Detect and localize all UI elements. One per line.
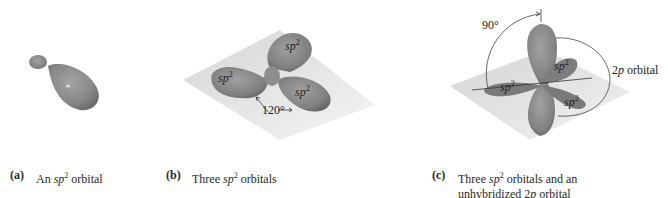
panel-a: (a)An sp2 orbital [0,0,150,198]
caption-letter: (c) [432,168,458,183]
sp2-label-right: sp2 [295,84,310,100]
sp2-orbital-single-illustration [0,0,150,160]
caption-a: (a)An sp2 orbital [10,168,103,187]
nucleus [264,66,280,86]
angle-label-120: 120° [262,103,285,118]
small-lobe [29,55,47,69]
panel-c: 90° sp2 sp2 sp2 2p orbital (c)Three sp2 … [380,0,668,198]
sp2-label-top: sp2 [285,38,300,54]
caption-b: (b)Three sp2 orbitals [166,168,277,187]
sp2-label-left: sp2 [500,79,515,95]
caption-letter: (b) [166,168,192,183]
sp2-label-right: sp2 [564,94,579,110]
caption-c: (c)Three sp2 orbitals and anunhybridized… [432,168,577,198]
angle-label-90: 90° [482,18,499,33]
p-orbital-label: 2p orbital [612,63,658,78]
panel-b: sp2 sp2 sp2 120° (b)Three sp2 orbitals [150,0,380,198]
three-sp2-orbitals-illustration [150,0,380,160]
sp2-label-left: sp2 [218,70,233,86]
caption-letter: (a) [10,168,36,183]
sp2-label-back: sp2 [554,58,569,74]
sp2-and-2p-orbitals-illustration [380,0,668,160]
large-lobe [48,64,99,110]
